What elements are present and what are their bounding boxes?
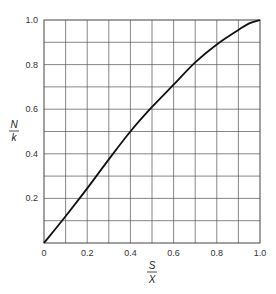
x-tick-label: 0.4 — [124, 248, 137, 258]
x-tick-label: 0 — [41, 248, 46, 258]
y-axis-label-denominator: k — [12, 132, 18, 143]
x-axis-ticks: 00.20.40.60.81.0 — [41, 248, 266, 258]
x-tick-label: 0.8 — [211, 248, 224, 258]
y-tick-label: 0.4 — [25, 149, 38, 159]
x-tick-label: 0.2 — [81, 248, 94, 258]
y-tick-label: 0.8 — [25, 60, 38, 70]
x-tick-label: 1.0 — [254, 248, 267, 258]
grid-lines — [44, 20, 260, 243]
y-axis-label: N k — [9, 119, 19, 143]
y-axis-ticks: 0.20.40.60.81.0 — [25, 15, 38, 203]
x-axis-label: S X — [147, 260, 157, 285]
y-tick-label: 0.2 — [25, 193, 38, 203]
x-axis-label-denominator: X — [148, 274, 156, 285]
y-tick-label: 1.0 — [25, 15, 38, 25]
line-chart: 00.20.40.60.81.0 0.20.40.60.81.0 N k S X — [0, 0, 276, 294]
x-tick-label: 0.6 — [167, 248, 180, 258]
y-axis-label-numerator: N — [10, 119, 18, 130]
x-axis-label-numerator: S — [149, 260, 156, 271]
y-tick-label: 0.6 — [25, 104, 38, 114]
